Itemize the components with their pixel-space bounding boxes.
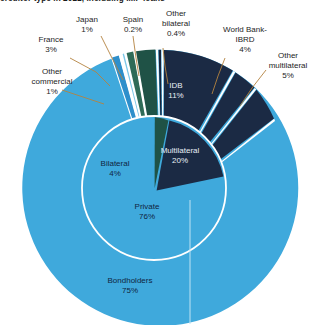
callout-other-bilateral: Other bilateral 0.4% <box>162 9 190 38</box>
japan-value: 1% <box>81 25 93 34</box>
france-line1: France <box>39 35 64 44</box>
other-commercial-value: 1% <box>46 87 58 96</box>
spain-line1: Spain <box>123 15 143 24</box>
pie-chart-figure: creditor type in 2021, including IMF loa… <box>0 0 314 325</box>
callout-france: France 3% <box>39 35 64 54</box>
bondholders-name: Bondholders <box>108 276 153 285</box>
other-bilateral-line1: Other <box>166 9 186 18</box>
multilateral-value: 20% <box>172 156 188 165</box>
bilateral-name: Bilateral <box>101 159 130 168</box>
private-value: 76% <box>139 212 155 221</box>
world-bank-line2: IBRD <box>235 35 254 44</box>
idb-name: IDB <box>169 81 182 90</box>
other-bilateral-line2: bilateral <box>162 19 190 28</box>
spain-value: 0.2% <box>124 25 142 34</box>
inline-label-idb: IDB 11% <box>168 81 183 100</box>
chart-title-clipped: creditor type in 2021, including IMF loa… <box>0 0 314 5</box>
other-bilateral-value: 0.4% <box>167 29 185 38</box>
callout-japan: Japan 1% <box>76 15 98 34</box>
other-multi-line1: Other <box>278 51 298 60</box>
private-name: Private <box>135 202 160 211</box>
bondholders-value: 75% <box>122 286 138 295</box>
japan-line1: Japan <box>76 15 98 24</box>
france-value: 3% <box>45 45 57 54</box>
other-multi-value: 5% <box>282 71 294 80</box>
pie-svg-canvas: Other commercial 1% France 3% Japan 1% S… <box>0 0 314 325</box>
callout-other-multilateral: Other multilateral 5% <box>269 51 308 80</box>
other-commercial-line1: Other <box>42 67 62 76</box>
multilateral-name: Multilateral <box>161 146 200 155</box>
world-bank-value: 4% <box>239 45 251 54</box>
idb-value: 11% <box>168 91 183 100</box>
world-bank-line1: World Bank- <box>223 25 267 34</box>
other-commercial-line2: commercial <box>32 77 73 86</box>
callout-world-bank-ibrd: World Bank- IBRD 4% <box>223 25 267 54</box>
chart-title-text: creditor type in 2021, including IMF loa… <box>0 0 314 4</box>
bilateral-value: 4% <box>109 169 121 178</box>
callout-spain: Spain 0.2% <box>123 15 143 34</box>
other-multi-line2: multilateral <box>269 61 308 70</box>
